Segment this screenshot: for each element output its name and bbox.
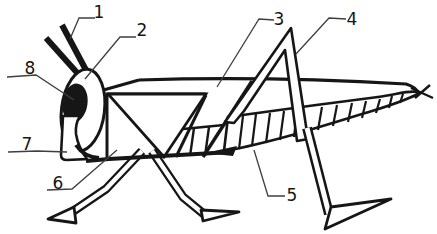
hind-tibia-inner <box>307 128 329 214</box>
antenna-right <box>62 25 87 72</box>
dorsal-wing-top-line <box>139 79 419 94</box>
leader-line-4 <box>296 18 346 54</box>
middle-leg <box>152 151 239 221</box>
label-6: 6 <box>53 173 64 193</box>
label-8: 8 <box>25 58 36 78</box>
label-3: 3 <box>274 9 285 29</box>
middle-tarsus <box>201 210 239 221</box>
neck-slant-line <box>100 80 139 91</box>
label-5: 5 <box>287 185 298 205</box>
label-4: 4 <box>347 9 358 29</box>
coxa-line-1 <box>190 128 194 156</box>
figure-canvas: 1 2 3 4 5 6 7 8 <box>0 0 437 234</box>
label-7: 7 <box>22 134 33 154</box>
label-2: 2 <box>137 20 148 40</box>
label-1: 1 <box>94 2 105 22</box>
front-tarsus <box>48 207 76 223</box>
leader-line-5 <box>254 150 285 196</box>
hind-tarsus <box>325 199 391 229</box>
head-group <box>46 25 109 160</box>
leader-line-1 <box>70 18 95 39</box>
leader-line-7 <box>8 151 67 152</box>
abdomen <box>205 85 433 156</box>
grasshopper-diagram: 1 2 3 4 5 6 7 8 <box>0 0 437 234</box>
